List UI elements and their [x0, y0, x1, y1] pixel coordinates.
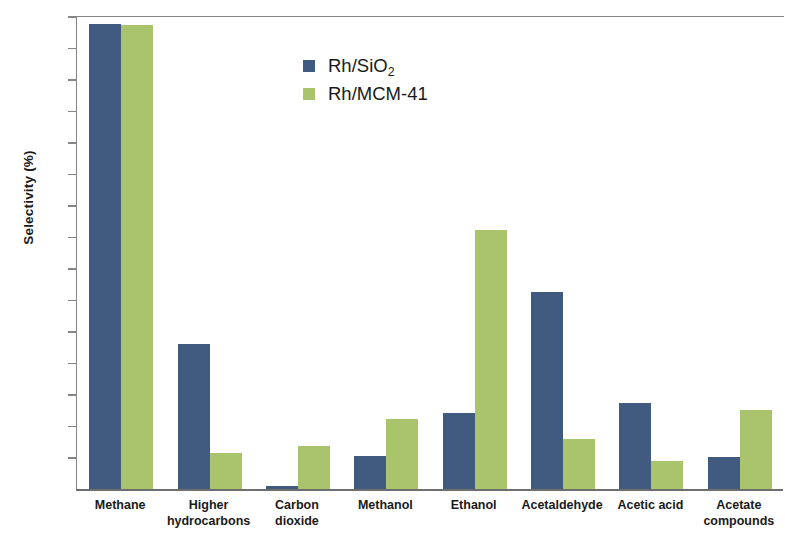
y-axis-tick-mark: [68, 331, 76, 333]
bar: [354, 456, 386, 490]
x-axis-category-label: Methane: [76, 497, 164, 513]
bar: [619, 403, 651, 490]
bar: [740, 410, 772, 490]
y-axis-tick-mark: [68, 457, 76, 459]
legend-swatch-icon: [303, 60, 315, 72]
y-axis-tick-mark: [68, 363, 76, 365]
x-axis-category-label-line: Acetaldehyde: [518, 497, 606, 513]
bar-group: [519, 17, 607, 490]
y-axis-tick-mark: [68, 394, 76, 396]
x-axis-category-label-line: compounds: [695, 513, 783, 529]
legend-item[interactable]: Rh/MCM-41: [303, 80, 428, 108]
legend-item-label: Rh/SiO2: [328, 55, 395, 77]
y-axis-tick-mark: [68, 48, 76, 50]
x-axis-category-label-line: Acetate: [695, 497, 783, 513]
y-axis-tick-mark: [68, 426, 76, 428]
y-axis-tick-mark: [68, 174, 76, 176]
bar: [708, 457, 740, 490]
bar-group: [165, 17, 253, 490]
legend-swatch-icon: [303, 88, 315, 100]
y-axis-tick-mark: [68, 111, 76, 113]
bar: [531, 292, 563, 490]
x-axis-category-label: Ethanol: [430, 497, 518, 513]
y-axis-tick-mark: [68, 300, 76, 302]
x-axis-line: [76, 489, 783, 491]
bar: [651, 461, 683, 490]
bar-group: [431, 17, 519, 490]
x-axis-category-label-line: Ethanol: [430, 497, 518, 513]
bar: [386, 419, 418, 490]
x-axis-category-label: Acetatecompounds: [695, 497, 783, 529]
bar: [210, 453, 242, 490]
y-axis-title-text: Selectivity (%): [21, 150, 36, 245]
bar-group: [696, 17, 784, 490]
legend-label-subscript: 2: [388, 65, 395, 79]
bar-chart: Selectivity (%) 454239363330272421181512…: [0, 0, 785, 534]
bar: [298, 446, 330, 490]
x-axis-category-label-line: hydrocarbons: [164, 513, 252, 529]
y-axis-tick-mark: [68, 142, 76, 144]
x-axis-category-label: Acetic acid: [606, 497, 694, 513]
bar-group: [607, 17, 695, 490]
legend-item[interactable]: Rh/SiO2: [303, 52, 428, 80]
x-axis-category-label: Methanol: [341, 497, 429, 513]
x-axis-category-label: Acetaldehyde: [518, 497, 606, 513]
bar: [121, 25, 153, 490]
y-axis-tick-mark: [68, 79, 76, 81]
x-axis-category-label-line: Acetic acid: [606, 497, 694, 513]
legend-item-label: Rh/MCM-41: [328, 83, 428, 105]
x-axis-category-label: Carbondioxide: [253, 497, 341, 529]
x-axis-category-label-line: Methane: [76, 497, 164, 513]
bar: [443, 413, 475, 490]
x-axis-category-label-line: dioxide: [253, 513, 341, 529]
x-axis-category-label: Higherhydrocarbons: [164, 497, 252, 529]
x-axis-category-label-line: Methanol: [341, 497, 429, 513]
bar: [563, 439, 595, 491]
y-axis-tick-mark: [68, 16, 76, 18]
y-axis-tick-mark: [68, 205, 76, 207]
y-axis-tick-mark: [68, 268, 76, 270]
chart-legend: Rh/SiO2Rh/MCM-41: [303, 52, 428, 108]
plot-area: [76, 16, 784, 490]
x-axis-category-label-line: Carbon: [253, 497, 341, 513]
bar-group: [77, 17, 165, 490]
bar: [475, 230, 507, 490]
bar: [89, 24, 121, 490]
y-axis-title: Selectivity (%): [21, 98, 36, 298]
y-axis-tick-mark: [68, 237, 76, 239]
x-axis-category-label-line: Higher: [164, 497, 252, 513]
bar: [178, 344, 210, 490]
